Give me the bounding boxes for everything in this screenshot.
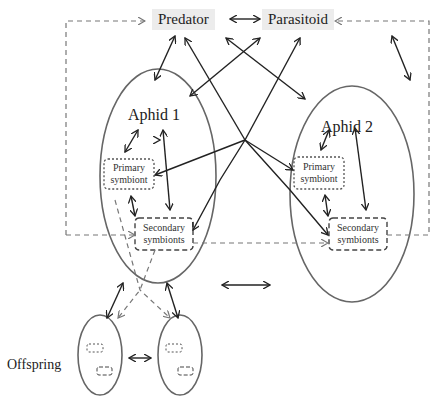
- offspring1-ellipse: [78, 315, 122, 395]
- secondary-symbionts-2: Secondarysymbionts: [331, 222, 385, 246]
- predator-node: Predator: [152, 9, 215, 30]
- aphid2-label: Aphid 2: [321, 119, 373, 135]
- parasitoid-node: Parasitoid: [262, 9, 334, 30]
- offspring-label: Offspring: [7, 358, 61, 372]
- aphid1-label: Aphid 1: [128, 107, 180, 123]
- diagram-canvas: Predator Parasitoid Aphid 1 Aphid 2 Prim…: [0, 0, 444, 409]
- secondary-symbionts-1: Secondarysymbionts: [137, 222, 191, 246]
- offspring2-ellipse: [158, 315, 202, 395]
- primary-symbiont-2: Primarysymbiont: [296, 161, 342, 185]
- diagram-svg: [0, 0, 444, 409]
- primary-symbiont-1: Primarysymbiont: [106, 162, 152, 186]
